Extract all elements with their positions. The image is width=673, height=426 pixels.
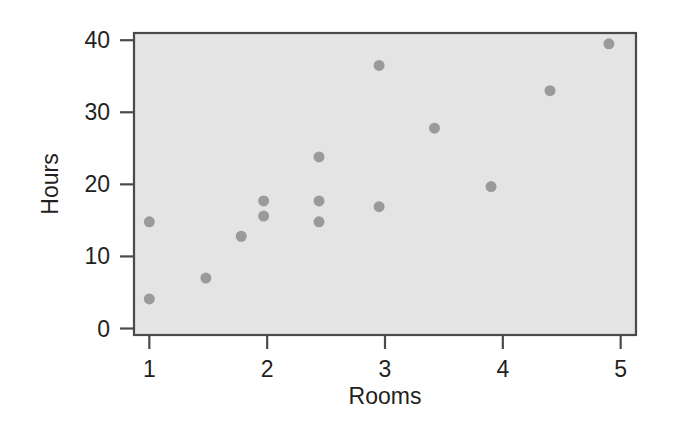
x-axis-title: Rooms xyxy=(349,383,422,409)
data-point xyxy=(314,195,325,206)
x-axis-tick-label: 2 xyxy=(261,356,274,382)
data-point xyxy=(236,231,247,242)
x-axis-tick-label: 3 xyxy=(379,356,392,382)
y-axis-tick-label: 30 xyxy=(84,99,110,125)
data-point xyxy=(258,211,269,222)
x-axis-ticks xyxy=(149,335,620,349)
data-point xyxy=(144,293,155,304)
x-axis-tick-labels: 12345 xyxy=(143,356,627,382)
y-axis-tick-label: 40 xyxy=(84,27,110,53)
data-point xyxy=(314,216,325,227)
data-point xyxy=(603,38,614,49)
y-axis-title: Hours xyxy=(37,153,63,214)
plot-area-background xyxy=(134,33,636,335)
data-point xyxy=(314,151,325,162)
y-axis-tick-label: 20 xyxy=(84,171,110,197)
scatter-plot-figure: 010203040 12345 Hours Rooms xyxy=(0,0,673,426)
data-point xyxy=(544,85,555,96)
x-axis-tick-label: 5 xyxy=(614,356,627,382)
y-axis-tick-labels: 010203040 xyxy=(84,27,110,341)
x-axis-tick-label: 4 xyxy=(496,356,509,382)
data-point xyxy=(258,195,269,206)
data-point xyxy=(486,181,497,192)
data-point xyxy=(374,60,385,71)
data-point xyxy=(200,273,211,284)
data-point xyxy=(374,201,385,212)
x-axis-tick-label: 1 xyxy=(143,356,156,382)
data-point xyxy=(144,216,155,227)
y-axis-tick-label: 0 xyxy=(97,316,110,342)
data-point xyxy=(429,123,440,134)
y-axis-tick-label: 10 xyxy=(84,243,110,269)
y-axis-ticks xyxy=(120,40,134,328)
chart-canvas: 010203040 12345 Hours Rooms xyxy=(0,0,673,426)
